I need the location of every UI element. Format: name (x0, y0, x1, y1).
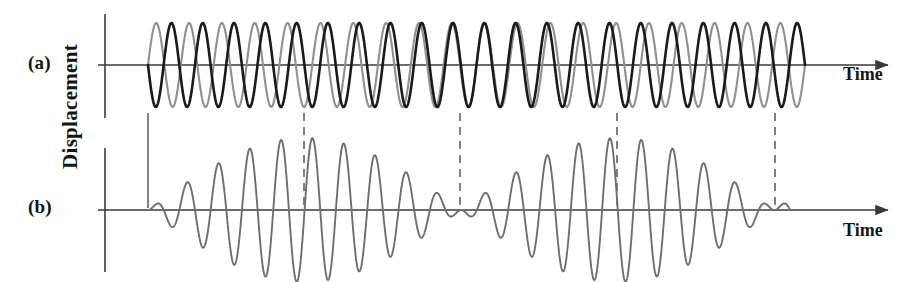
panel-label-a: (a) (28, 52, 51, 74)
x-axis-title-b: Time (843, 220, 883, 241)
x-axis-title-a: Time (843, 64, 883, 85)
panel-label-b: (b) (28, 196, 52, 218)
beat-guide-lines (148, 113, 775, 208)
y-axis-title: Displacement (58, 7, 83, 207)
beats-figure: (a) (b) Displacement Time Time (0, 0, 913, 282)
waveform-plot (0, 0, 913, 282)
